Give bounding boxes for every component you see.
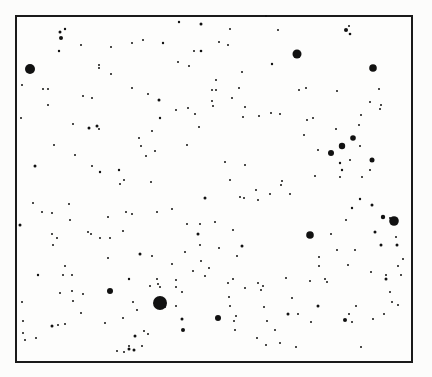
star [351, 321, 353, 323]
star [312, 117, 314, 119]
star [200, 23, 203, 26]
star [211, 89, 213, 91]
star [379, 108, 381, 110]
star [22, 320, 24, 322]
star [158, 99, 161, 102]
star [279, 113, 281, 115]
star [52, 244, 54, 246]
star [317, 305, 320, 308]
star [385, 274, 387, 276]
star [128, 345, 130, 347]
star [341, 169, 343, 171]
star [187, 107, 189, 109]
star [397, 265, 399, 267]
star [104, 322, 106, 324]
star [193, 50, 195, 52]
star [244, 106, 246, 108]
star [303, 134, 305, 136]
star [330, 233, 332, 235]
star [359, 198, 361, 200]
star [64, 265, 66, 267]
star [310, 321, 312, 323]
star [395, 236, 397, 238]
star [34, 165, 37, 168]
star [349, 159, 351, 161]
star [354, 249, 356, 251]
star [149, 285, 151, 287]
star [232, 229, 234, 231]
star [227, 44, 229, 46]
star [242, 116, 244, 118]
star [258, 115, 260, 117]
star [186, 223, 188, 225]
star [318, 256, 320, 258]
star [369, 64, 377, 72]
star [22, 332, 24, 334]
star [175, 109, 177, 111]
star [147, 93, 149, 95]
star [47, 88, 49, 90]
star [260, 289, 262, 291]
star [231, 97, 233, 99]
star [391, 301, 393, 303]
star [200, 50, 203, 53]
star [317, 149, 319, 151]
star [175, 305, 177, 307]
star [19, 224, 22, 227]
star [87, 231, 89, 233]
star [134, 335, 137, 338]
star [122, 317, 124, 319]
star [243, 197, 245, 199]
star [285, 277, 287, 279]
star [57, 324, 59, 326]
star [71, 290, 73, 292]
star [280, 184, 282, 186]
star [88, 127, 91, 130]
star [348, 25, 350, 27]
star [369, 169, 371, 171]
star [306, 119, 308, 121]
star [72, 300, 74, 302]
star [270, 112, 272, 114]
star [122, 230, 124, 232]
star [156, 211, 158, 213]
star [241, 245, 244, 248]
star [131, 87, 133, 89]
star [336, 90, 338, 92]
star [326, 281, 328, 283]
star [374, 231, 377, 234]
star [107, 288, 113, 294]
star [159, 117, 161, 119]
star [381, 215, 385, 219]
star [198, 126, 200, 128]
star [107, 257, 109, 259]
star [271, 63, 273, 65]
star [293, 50, 302, 59]
star [59, 292, 61, 294]
star [228, 296, 230, 298]
star [140, 145, 142, 147]
star [178, 21, 180, 23]
star [181, 318, 184, 321]
star [157, 283, 159, 285]
star [265, 15, 267, 17]
star [64, 323, 66, 325]
star [239, 196, 241, 198]
star [171, 263, 173, 265]
star [128, 278, 130, 280]
star [291, 297, 293, 299]
star [355, 305, 357, 307]
star [82, 293, 84, 295]
star [389, 291, 391, 293]
star [397, 304, 399, 306]
star [25, 64, 35, 74]
star [244, 287, 246, 289]
star [177, 61, 179, 63]
star [159, 286, 161, 288]
star [175, 279, 177, 281]
star [224, 161, 226, 163]
star [98, 64, 100, 66]
star [125, 211, 127, 213]
star [184, 251, 186, 253]
star [305, 87, 307, 89]
